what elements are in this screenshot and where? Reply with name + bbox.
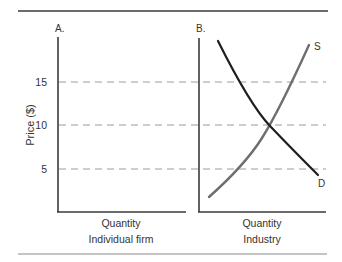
panel-a: A. Quantity Individual firm: [55, 23, 186, 245]
panel-a-subtitle: Individual firm: [89, 233, 154, 245]
panel-b: B. S D Quantity Industry: [196, 23, 326, 245]
panel-b-x-label: Quantity: [242, 217, 282, 229]
y-tick-15: 15: [35, 76, 47, 88]
y-tick-10: 10: [35, 119, 47, 131]
panel-a-label: A.: [55, 23, 64, 34]
demand-label: D: [318, 178, 325, 189]
supply-label: S: [314, 41, 321, 52]
demand-curve: [218, 41, 318, 175]
supply-curve: [209, 45, 309, 197]
chart-figure: Price ($) 15 10 5 A. Quantity Individual…: [0, 0, 342, 262]
panel-a-x-label: Quantity: [101, 217, 141, 229]
panel-b-label: B.: [196, 23, 205, 34]
y-tick-5: 5: [41, 163, 47, 175]
y-axis-label: Price ($): [24, 104, 36, 146]
panel-b-subtitle: Industry: [243, 233, 281, 245]
